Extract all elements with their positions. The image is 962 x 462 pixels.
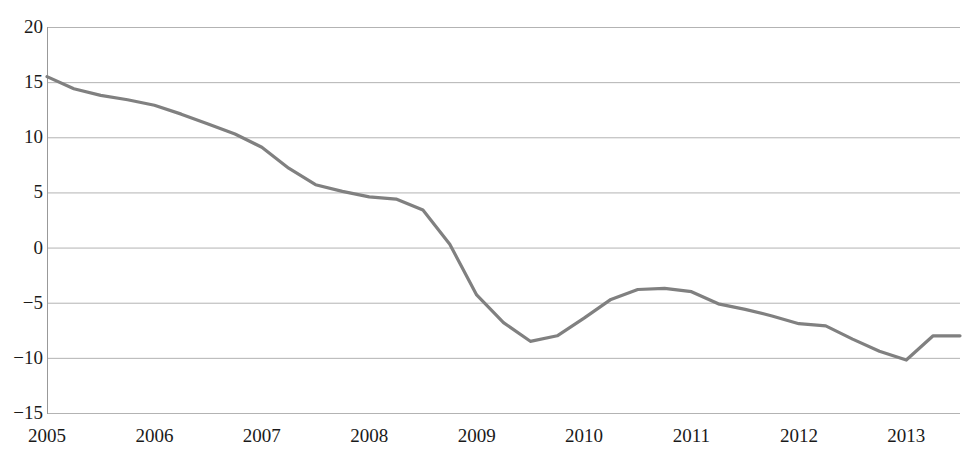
x-tick-label: 2007 [243, 426, 281, 445]
x-tick-label: 2005 [28, 426, 66, 445]
x-tick-label: 2006 [135, 426, 173, 445]
x-tick-label: 2011 [673, 426, 710, 445]
line-chart: 20151050−5−10−15 20052006200720082009201… [0, 0, 962, 462]
x-axis-tick-labels: 200520062007200820092010201120122013 [0, 0, 962, 462]
x-tick-label: 2013 [887, 426, 925, 445]
x-tick-label: 2009 [458, 426, 496, 445]
x-tick-label: 2010 [565, 426, 603, 445]
x-tick-label: 2012 [780, 426, 818, 445]
x-tick-label: 2008 [350, 426, 388, 445]
